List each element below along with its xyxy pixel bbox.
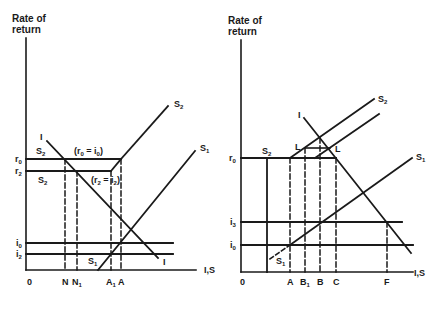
right-ytick-r0: r0: [229, 153, 237, 164]
left-xtick-N: N: [62, 277, 69, 287]
right-ytick-i0: i0: [230, 240, 237, 251]
left-xtick-A: A: [118, 277, 125, 287]
left-s2-curve: [121, 106, 168, 159]
right-xtick-B: B: [317, 277, 324, 287]
left-s2-kink: [111, 159, 121, 171]
left-x-axis-label: I,S: [204, 265, 215, 275]
right-origin-label: 0: [240, 277, 245, 287]
left-origin-label: 0: [27, 277, 32, 287]
left-xtick-N1: N1: [72, 277, 83, 288]
right-x-axis-label: I,S: [414, 268, 425, 278]
diagram-canvas: I,S 0 r0 r2 i0 i2 N N1 A1 A I I S2 S1 S1…: [0, 0, 440, 318]
right-labels: I,S 0 r0 i3 i0 A B1 B C F I S2 S1 S1 S2 …: [229, 94, 426, 288]
left-ytick-i0: i0: [16, 238, 23, 249]
right-xtick-B1: B1: [300, 277, 311, 288]
right-label-S1-top: S1: [416, 152, 426, 163]
right-label-S2-top: S2: [378, 94, 388, 105]
left-ytick-r2: r2: [15, 166, 23, 177]
right-xtick-F: F: [384, 277, 390, 287]
right-xtick-A: A: [287, 277, 294, 287]
left-label-S2-r2: S2: [38, 175, 48, 186]
left-labels: I,S 0 r0 r2 i0 i2 N N1 A1 A I I S2 S1 S1…: [15, 99, 215, 288]
left-xtick-A1: A1: [106, 277, 117, 288]
left-ytick-i2: i2: [16, 249, 23, 260]
left-label-I-top: I: [40, 132, 43, 142]
left-label-S1-bottom: S1: [88, 256, 98, 267]
right-xtick-C: C: [333, 277, 340, 287]
left-label-I-bottom: I: [163, 257, 166, 267]
right-s2-shifted-curve: [315, 114, 379, 158]
left-label-S2-top: S2: [174, 99, 184, 110]
left-annotation-r0-eq-i0: (r0 = i0): [74, 146, 103, 157]
right-panel: [241, 40, 413, 272]
right-s2-curve: [290, 99, 374, 158]
right-label-L-right: L: [335, 144, 341, 154]
right-label-S1-bottom: S1: [276, 256, 286, 267]
right-label-I-top: I: [298, 110, 301, 120]
right-ytick-i3: i3: [230, 217, 237, 228]
right-label-L-left: L: [295, 142, 301, 152]
left-label-S2-r0: S2: [36, 146, 46, 157]
left-ytick-r0: r0: [15, 154, 23, 165]
left-annotation-r2-eq-i2: (r2 = i2): [91, 175, 120, 186]
right-label-S2-r0: S2: [262, 146, 272, 157]
left-label-S1-top: S1: [200, 143, 210, 154]
left-panel: [26, 38, 196, 270]
